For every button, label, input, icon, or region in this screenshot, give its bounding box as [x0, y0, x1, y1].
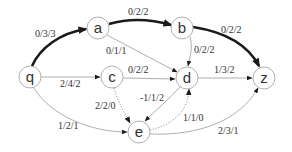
edge-label-a-d: 0/1/1 [106, 45, 127, 56]
node-label-c: c [108, 68, 116, 85]
edge-label-c-e: 2/2/0 [95, 100, 116, 111]
node-label-b: b [178, 19, 186, 36]
node-label-a: a [94, 19, 103, 36]
edge-e-z [150, 88, 258, 134]
edge-label-q-c: 2/4/2 [60, 78, 81, 89]
node-label-e: e [135, 123, 143, 140]
node-a: a [87, 17, 109, 39]
node-label-q: q [26, 68, 34, 85]
node-label-z: z [260, 69, 268, 86]
edge-label-b-d: 0/2/2 [194, 44, 215, 55]
edge-label-b-z: 0/2/2 [221, 24, 242, 35]
flow-network-diagram: 0/3/3 0/2/2 0/2/2 0/1/1 0/2/2 2/4/2 0/2/… [0, 0, 292, 152]
edge-label-e-d: 1/1/0 [183, 112, 204, 123]
edge-label-e-z: 2/3/1 [218, 125, 239, 136]
edge-label-d-e: -1/1/2 [140, 92, 164, 103]
edge-label-a-b: 0/2/2 [128, 6, 149, 17]
edge-b-d [188, 37, 191, 66]
node-b: b [171, 17, 193, 39]
edge-label-q-e: 1/2/1 [58, 120, 79, 131]
node-q: q [19, 66, 41, 88]
node-z: z [253, 67, 275, 89]
edge-label-c-d: 0/2/2 [128, 64, 149, 75]
node-c: c [101, 66, 123, 88]
edge-label-q-a: 0/3/3 [35, 28, 56, 39]
edge-a-b [109, 20, 171, 25]
node-d: d [176, 67, 198, 89]
edge-label-d-z: 1/3/2 [214, 64, 235, 75]
node-e: e [128, 121, 150, 143]
edge-c-d [123, 78, 175, 79]
edge-c-e [114, 88, 130, 123]
node-label-d: d [183, 69, 191, 86]
